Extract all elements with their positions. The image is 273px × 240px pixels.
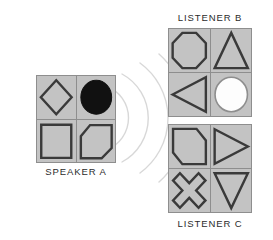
listener-b-cell-bottom-left	[169, 73, 210, 116]
speaker-a-cell-top-left	[37, 76, 76, 119]
speaker-a-cell-bottom-left	[37, 120, 76, 163]
filled-white-circle	[215, 77, 247, 111]
listener-c-label: LISTENER C	[168, 218, 252, 229]
speaker-a-cell-bottom-right	[77, 120, 116, 163]
listener-b-cell-top-left	[169, 29, 210, 72]
listener-c-cell-top-left	[169, 125, 210, 168]
listener-b-cell-top-right	[211, 29, 252, 72]
sound-wave-arc-3	[140, 63, 168, 173]
listener-c-cell-bottom-left	[169, 169, 210, 212]
listener-c-cell-bottom-right	[211, 169, 252, 212]
octagon-shape	[173, 33, 206, 68]
triangle-right-shape	[214, 129, 247, 163]
cross-x-shape	[173, 173, 205, 207]
filled-black-circle	[80, 80, 111, 114]
sound-wave-arc-2	[122, 74, 148, 162]
speaker-a-grid	[36, 75, 116, 163]
diagram-canvas: SPEAKER A LISTENER B	[0, 0, 273, 240]
diamond-shape	[41, 80, 72, 114]
square-shape	[41, 124, 71, 157]
triangle-up-shape	[214, 33, 247, 68]
listener-b-label: LISTENER B	[168, 12, 252, 23]
speaker-a-cell-top-right	[77, 76, 116, 119]
triangle-left-shape	[173, 77, 206, 111]
listener-c-cell-top-right	[211, 125, 252, 168]
speaker-a-label: SPEAKER A	[36, 166, 116, 177]
listener-b-cell-bottom-right	[211, 73, 252, 116]
clipped-parallelogram-shape	[80, 125, 111, 158]
triangle-down-shape	[214, 173, 247, 208]
clipped-pentagon-shape	[173, 129, 206, 164]
listener-c-grid	[168, 124, 252, 213]
listener-b-grid	[168, 28, 252, 117]
